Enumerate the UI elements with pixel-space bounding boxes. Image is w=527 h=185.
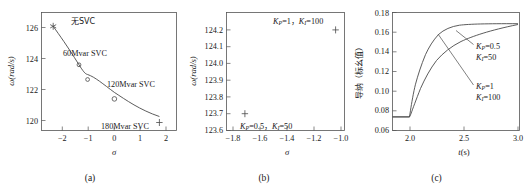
panel-b-xtick-m14: −1.4 xyxy=(280,134,295,143)
panel-a-xtick-0: 0 xyxy=(112,134,116,143)
panel-c-xtick-20: 2.0 xyxy=(405,134,415,143)
panel-b-xtick-m16: −1.6 xyxy=(253,134,268,143)
panel-b-ytick-1240: 124.0 xyxy=(205,59,223,68)
panel-b-plot: 123.6 123.7 123.8 123.9 124.0 124.1 124.… xyxy=(178,0,350,185)
panel-c-ytick-008: 0.08 xyxy=(375,106,389,115)
panel-a-xtick-m1: −1 xyxy=(84,134,93,143)
panel-a-ytick-122: 122 xyxy=(26,86,38,95)
panel-c-curve-kp1-ki100 xyxy=(393,24,519,117)
panel-a-caption: (a) xyxy=(0,173,180,183)
panel-c-y-ticks: 0.06 0.08 0.10 0.12 0.14 0.16 0.18 xyxy=(375,9,397,135)
svg-text:KP=1: KP=1 xyxy=(475,82,494,91)
panel-a-annotation-180mvar: 180Mvar SVC xyxy=(101,122,150,131)
panel-b-axes-frame xyxy=(227,13,345,131)
panel-c-annotation-kp05: KP=0.5 KI=50 xyxy=(475,42,500,62)
svg-text:KP=0.5，KI=50: KP=0.5，KI=50 xyxy=(239,122,292,131)
panel-b-marker-high-gain xyxy=(332,26,338,33)
figure-three-panel: 126 124 122 120 −2 −1 0 1 2 xyxy=(0,0,527,185)
panel-a-ytick-126: 126 xyxy=(26,24,38,33)
panel-c-ytick-016: 0.16 xyxy=(375,28,389,37)
panel-a-xtick-2: 2 xyxy=(164,134,168,143)
panel-c-ann2-val: =50 xyxy=(483,53,496,62)
panel-c-xtick-30: 3.0 xyxy=(513,134,523,143)
panel-b-caption: (b) xyxy=(178,173,350,183)
svg-text:KI=100: KI=100 xyxy=(475,93,500,102)
panel-a-y-ticks: 126 124 122 120 xyxy=(26,24,46,126)
panel-a-marker-120mvar xyxy=(86,78,90,82)
panel-a-xtick-m2: −2 xyxy=(58,134,67,143)
panel-c-leader-fast xyxy=(438,34,474,85)
panel-a-ytick-124: 124 xyxy=(26,55,38,64)
panel-b-ann-bot-tail: =50 xyxy=(279,122,292,131)
panel-b-ytick-1236: 123.6 xyxy=(205,126,223,135)
panel-c-plot: 0.06 0.08 0.10 0.12 0.14 0.16 0.18 2.0 2… xyxy=(346,0,527,185)
panel-b-ytick-1237: 123.7 xyxy=(205,109,223,118)
panel-a-annotation-60mvar: 60Mvar SVC xyxy=(63,49,107,58)
panel-b-ytick-1239: 123.9 xyxy=(205,76,223,85)
svg-text:KP=1，KI=100: KP=1，KI=100 xyxy=(272,17,323,26)
panel-a-yaxis-label: ω(rad/s) xyxy=(6,56,16,86)
panel-c-caption: (c) xyxy=(346,173,527,183)
panel-b-ytick-1242: 124.2 xyxy=(205,26,223,35)
panel-c-yaxis-label: 导纳（标幺值） xyxy=(354,43,364,99)
panel-b-xaxis-label: σ xyxy=(285,147,290,157)
panel-a-marker-open-circle xyxy=(112,97,117,102)
svg-text:KI=50: KI=50 xyxy=(475,53,496,62)
panel-c-xaxis-label: t(s) xyxy=(458,147,470,157)
panel-c-ann3-val: =1 xyxy=(485,82,494,91)
panel-a-annotation-120mvar: 120Mvar SVC xyxy=(107,80,156,89)
panel-a-xtick-1: 1 xyxy=(138,134,142,143)
panel-b-ytick-1241: 124.1 xyxy=(205,42,223,51)
panel-c-xtick-25: 2.5 xyxy=(459,134,469,143)
panel-b-ytick-1238: 123.8 xyxy=(205,93,223,102)
panel-b: 123.6 123.7 123.8 123.9 124.0 124.1 124.… xyxy=(178,0,350,185)
panel-a-marker-180mvar xyxy=(156,119,162,126)
panel-c-ann1-val: =0.5 xyxy=(485,42,500,51)
panel-b-yaxis-label: ω(rad/s) xyxy=(188,56,198,86)
panel-b-ann-bot-mid: =0.5， xyxy=(249,122,272,131)
panel-c-ytick-018: 0.18 xyxy=(375,9,389,18)
panel-c-x-ticks: 2.0 2.5 3.0 xyxy=(405,127,523,144)
panel-a: 126 124 122 120 −2 −1 0 1 2 xyxy=(0,0,180,185)
panel-a-eigenvalue-curve xyxy=(53,26,159,116)
panel-c-ytick-010: 0.10 xyxy=(375,87,389,96)
panel-c-ytick-012: 0.12 xyxy=(375,67,389,76)
panel-c: 0.06 0.08 0.10 0.12 0.14 0.16 0.18 2.0 2… xyxy=(346,0,527,185)
panel-c-xaxis-unit: (s) xyxy=(461,147,470,157)
panel-b-annotation-low-gain: KP=0.5，KI=50 xyxy=(239,122,292,131)
panel-b-xtick-m12: −1.2 xyxy=(307,134,322,143)
panel-b-xtick-m18: −1.8 xyxy=(226,134,241,143)
panel-a-xaxis-label: σ xyxy=(112,147,117,157)
panel-c-ytick-006: 0.06 xyxy=(375,126,389,135)
panel-b-annotation-high-gain: KP=1，KI=100 xyxy=(272,17,323,26)
panel-a-plot: 126 124 122 120 −2 −1 0 1 2 xyxy=(0,0,180,185)
panel-b-ann-top-tail: =100 xyxy=(306,17,323,26)
svg-text:KP=0.5: KP=0.5 xyxy=(475,42,500,51)
panel-b-ann-top-mid: =1， xyxy=(282,17,299,26)
panel-b-marker-low-gain xyxy=(242,110,248,117)
panel-c-ann4-val: =100 xyxy=(483,93,500,102)
panel-c-annotation-kp1: KP=1 KI=100 xyxy=(475,82,500,102)
panel-c-ytick-014: 0.14 xyxy=(375,47,389,56)
panel-a-annotation-no-svc: 无SVC xyxy=(71,17,96,26)
panel-a-ytick-120: 120 xyxy=(26,117,38,126)
panel-a-axes-frame xyxy=(42,13,177,131)
